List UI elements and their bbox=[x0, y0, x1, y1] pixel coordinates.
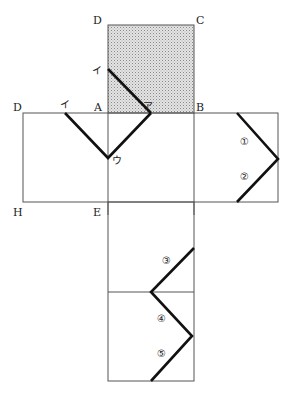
label-a: ア bbox=[143, 101, 153, 112]
label-H: H bbox=[13, 206, 23, 219]
label-i-top: イ bbox=[92, 65, 102, 76]
label-top-C: C bbox=[196, 14, 204, 27]
middle-row-frame bbox=[23, 113, 278, 202]
top-face-shaded bbox=[108, 25, 194, 113]
label-top-D: D bbox=[93, 14, 102, 27]
cube-net-diagram: D C D A B H E イ イ ア ウ ① ② ③ ④ ⑤ bbox=[0, 0, 285, 394]
label-left-D: D bbox=[13, 101, 22, 114]
segment-label-4: ④ bbox=[157, 313, 166, 324]
segment-label-3: ③ bbox=[162, 255, 171, 266]
path-right-face bbox=[237, 113, 278, 202]
segment-label-2: ② bbox=[240, 171, 249, 182]
segment-label-1: ① bbox=[240, 136, 249, 147]
label-E: E bbox=[93, 206, 101, 219]
label-A: A bbox=[93, 101, 103, 114]
label-u: ウ bbox=[112, 155, 122, 166]
segment-label-5: ⑤ bbox=[157, 348, 166, 359]
label-B: B bbox=[196, 101, 204, 114]
label-i-left: イ bbox=[60, 99, 70, 110]
